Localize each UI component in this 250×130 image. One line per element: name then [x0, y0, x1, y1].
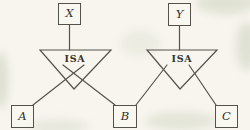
entity-box-a: A: [11, 105, 34, 128]
scanned-diagram-page: X Y A B C ISA ISA: [0, 0, 250, 130]
entity-box-c: C: [215, 105, 238, 128]
entity-label-c: C: [222, 110, 231, 122]
connector-isa-right-to-b: [136, 65, 167, 105]
entity-label-b: B: [121, 110, 129, 122]
isa-label-left: ISA: [56, 54, 94, 64]
connector-isa-right-to-c: [189, 65, 216, 105]
entity-label-y: Y: [176, 8, 184, 20]
entity-label-a: A: [18, 110, 26, 122]
entity-box-y: Y: [168, 3, 191, 26]
entity-box-b: B: [113, 105, 137, 128]
entity-label-x: X: [65, 8, 73, 20]
entity-box-x: X: [58, 3, 81, 25]
isa-label-right: ISA: [163, 54, 201, 64]
